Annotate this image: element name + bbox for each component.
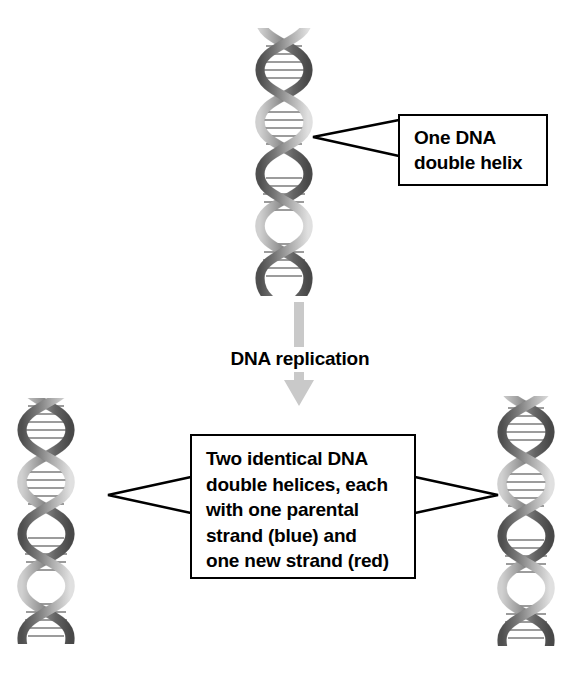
parent-dna-helix (252, 28, 316, 296)
callout-two-identical-helices: Two identical DNA double helices, each w… (190, 434, 416, 579)
callout-bottom-text: Two identical DNA double helices, each w… (206, 446, 414, 574)
daughter-dna-helix-right (494, 396, 558, 646)
callout-top-text: One DNA double helix (414, 125, 546, 175)
callout-one-dna-double-helix: One DNA double helix (398, 114, 548, 186)
daughter-dna-helix-left (14, 398, 78, 644)
dna-replication-figure: DNA replication (0, 0, 584, 677)
replication-label: DNA replication (205, 347, 395, 372)
